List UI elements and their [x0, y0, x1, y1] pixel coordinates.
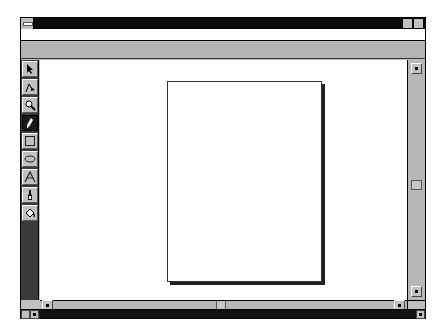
- pencil-tool[interactable]: [22, 115, 38, 131]
- maximize-button[interactable]: [413, 18, 424, 29]
- shape-node-icon: [24, 81, 36, 93]
- horizontal-scrollbar[interactable]: [40, 300, 407, 309]
- palette-swatches: [39, 310, 416, 318]
- color-palette: [21, 309, 425, 318]
- letter-a-icon: [24, 171, 36, 183]
- horizontal-scroll-thumb[interactable]: [216, 301, 226, 309]
- scroll-up-button[interactable]: [411, 63, 422, 74]
- vertical-scroll-thumb[interactable]: [411, 180, 422, 190]
- rectangle-icon: [24, 135, 36, 147]
- scroll-corner: [407, 300, 425, 309]
- title-bar[interactable]: [21, 18, 425, 29]
- menu-bar: [21, 29, 425, 41]
- text-tool[interactable]: [22, 169, 38, 185]
- window-title: [21, 18, 425, 29]
- minimize-button[interactable]: [402, 18, 413, 29]
- palette-scroll-left-button[interactable]: [30, 310, 39, 319]
- zoom-tool[interactable]: [22, 97, 38, 113]
- ellipse-tool[interactable]: [22, 151, 38, 167]
- rectangle-tool[interactable]: [22, 133, 38, 149]
- vertical-scrollbar[interactable]: [407, 60, 425, 300]
- ellipse-icon: [24, 153, 36, 165]
- pick-tool[interactable]: [22, 61, 38, 77]
- freehand-drawing[interactable]: [40, 60, 407, 300]
- scroll-down-button[interactable]: [411, 286, 422, 297]
- coreldraw-window: [20, 17, 426, 319]
- paint-bucket-icon: [24, 207, 36, 219]
- arrow-pointer-icon: [24, 63, 36, 75]
- shape-tool[interactable]: [22, 79, 38, 95]
- outline-pen-tool[interactable]: [22, 187, 38, 203]
- no-color-swatch[interactable]: [21, 310, 30, 319]
- status-bar: [21, 42, 425, 59]
- magnifier-icon: [24, 99, 36, 111]
- pencil-icon: [24, 117, 36, 129]
- fill-tool[interactable]: [22, 205, 38, 221]
- toolbox: [21, 60, 39, 300]
- drawing-canvas[interactable]: [40, 60, 407, 300]
- palette-scroll-right-button[interactable]: [416, 310, 425, 319]
- pen-nib-icon: [24, 189, 36, 201]
